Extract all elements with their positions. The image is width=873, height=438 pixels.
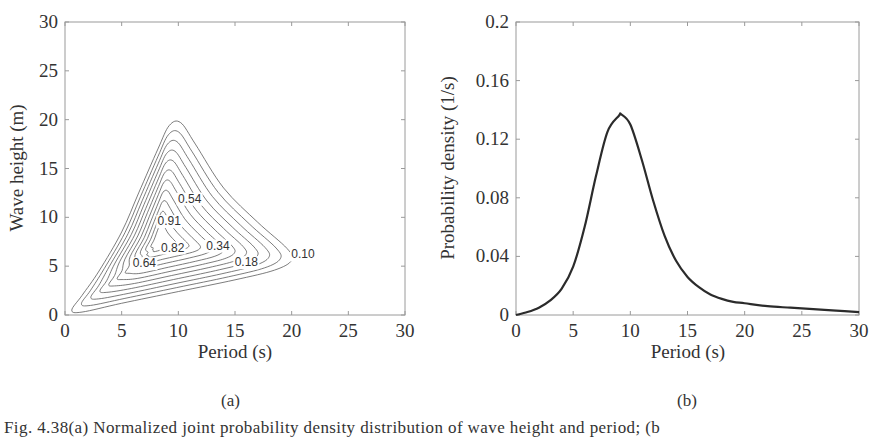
plot-frame-b	[516, 22, 859, 315]
axis-ticks-b	[516, 22, 859, 315]
panel-label-a: (a)	[221, 391, 240, 411]
y-tick-label: 5	[49, 255, 59, 276]
y-tick-label: 0.16	[476, 70, 509, 91]
y-tick-label: 0	[49, 304, 59, 325]
y-axis-label-b: Probability density (1/s)	[437, 76, 459, 260]
contour-label: 0.82	[161, 241, 185, 255]
y-tick-label: 0.08	[476, 187, 509, 208]
x-tick-label: 5	[568, 320, 578, 341]
x-tick-label: 20	[282, 320, 301, 341]
y-axis-label-a: Wave height (m)	[6, 104, 28, 231]
x-tick-label: 30	[396, 320, 415, 341]
figure-caption: Fig. 4.38(a) Normalized joint probabilit…	[4, 418, 660, 438]
y-tick-label: 20	[39, 109, 58, 130]
x-tick-label: 5	[117, 320, 127, 341]
y-tick-label: 30	[39, 11, 58, 32]
x-tick-label: 15	[226, 320, 245, 341]
x-tick-label: 30	[850, 320, 869, 341]
y-tick-label: 0.04	[476, 245, 510, 266]
x-tick-label: 15	[678, 320, 697, 341]
x-tick-label: 25	[792, 320, 811, 341]
contour-label: 0.10	[291, 247, 315, 261]
contour-label: 0.18	[235, 255, 259, 269]
y-tick-labels-a: 051015202530	[39, 11, 58, 325]
x-tick-label: 10	[621, 320, 640, 341]
x-tick-label: 25	[339, 320, 358, 341]
x-tick-label: 0	[60, 320, 70, 341]
density-curve	[516, 113, 859, 315]
panel-label-b: (b)	[677, 391, 697, 411]
contour-plot-panel-a: 0.540.910.820.340.640.180.10 05101520253…	[6, 11, 415, 363]
line-plot-panel-b: 051015202530 00.040.080.120.160.2 Period…	[437, 11, 869, 363]
contour-label: 0.91	[158, 214, 182, 228]
y-tick-label: 0	[500, 304, 510, 325]
contour-label: 0.54	[178, 192, 202, 206]
contour-label: 0.64	[133, 256, 157, 270]
x-axis-label-b: Period (s)	[651, 341, 725, 363]
x-tick-labels-a: 051015202530	[60, 320, 414, 341]
y-tick-label: 0.12	[476, 128, 509, 149]
y-tick-labels-b: 00.040.080.120.160.2	[476, 11, 510, 325]
y-tick-label: 0.2	[485, 11, 509, 32]
y-tick-label: 10	[39, 206, 58, 227]
contour-labels: 0.540.910.820.340.640.180.10	[131, 192, 316, 270]
x-tick-labels-b: 051015202530	[511, 320, 868, 341]
x-tick-label: 20	[735, 320, 754, 341]
x-tick-label: 10	[169, 320, 188, 341]
y-tick-label: 25	[39, 60, 58, 81]
x-axis-label-a: Period (s)	[198, 341, 272, 363]
y-tick-label: 15	[39, 158, 58, 179]
contour-label: 0.34	[206, 239, 230, 253]
x-tick-label: 0	[511, 320, 521, 341]
